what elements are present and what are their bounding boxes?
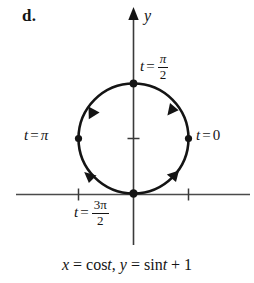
point-t-zero	[185, 135, 192, 142]
label-t-pi-over-2: t=π2	[140, 53, 168, 83]
parametric-equation-caption: x = cost, y = sint + 1	[0, 256, 254, 274]
point-t-pi-over-2	[130, 80, 138, 88]
label-t-3pi-over-2: t=3π2	[74, 199, 109, 229]
figure-panel: d. y	[0, 0, 254, 283]
y-axis-label: y	[144, 8, 151, 24]
point-t-pi	[75, 135, 82, 142]
direction-arrow-upper-left-icon	[89, 107, 100, 120]
point-t-3pi-over-2	[129, 189, 137, 197]
label-t-zero: t=0	[196, 128, 220, 143]
label-t-pi: t=π	[24, 128, 48, 143]
y-axis-arrow-icon	[128, 7, 138, 20]
